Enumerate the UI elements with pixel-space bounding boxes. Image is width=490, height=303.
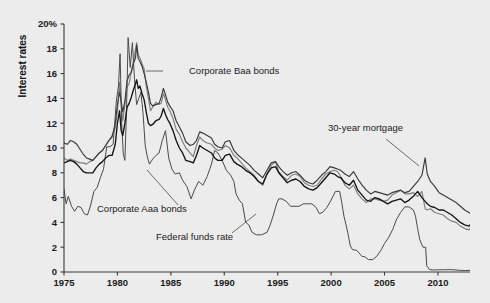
y-tick-label: 0 xyxy=(52,266,57,277)
chart-figure: 02468101214161820%1975198019851990199520… xyxy=(0,0,490,303)
y-tick-label: 8 xyxy=(52,167,57,178)
x-tick-label: 2005 xyxy=(374,277,396,288)
y-axis-title: Interest rates xyxy=(17,34,28,97)
x-tick-label: 1995 xyxy=(267,277,289,288)
annotation-label-aaa: Corporate Aaa bonds xyxy=(97,203,187,214)
annotation-label-baa: Corporate Baa bonds xyxy=(189,65,280,76)
x-tick-label: 1975 xyxy=(53,277,75,288)
annotation-label-mortgage: 30-year mortgage xyxy=(328,122,403,133)
y-tick-label: 12 xyxy=(46,118,57,129)
x-tick-label: 2000 xyxy=(321,277,342,288)
y-tick-label: 14 xyxy=(46,93,57,104)
x-tick-label: 1980 xyxy=(107,277,128,288)
y-tick-label: 10 xyxy=(46,142,57,153)
y-tick-label: 4 xyxy=(52,217,58,228)
interest-rates-line-chart: 02468101214161820%1975198019851990199520… xyxy=(0,0,490,303)
y-tick-label: 18 xyxy=(46,43,57,54)
y-tick-label: 2 xyxy=(52,242,57,253)
x-tick-label: 1985 xyxy=(160,277,182,288)
x-tick-label: 1990 xyxy=(214,277,235,288)
y-tick-label: 16 xyxy=(46,68,57,79)
chart-background xyxy=(0,0,490,303)
x-tick-label: 2010 xyxy=(427,277,448,288)
annotation-label-ffr: Federal funds rate xyxy=(156,231,233,242)
y-tick-label: 6 xyxy=(52,192,57,203)
y-tick-label: 20% xyxy=(38,18,58,29)
